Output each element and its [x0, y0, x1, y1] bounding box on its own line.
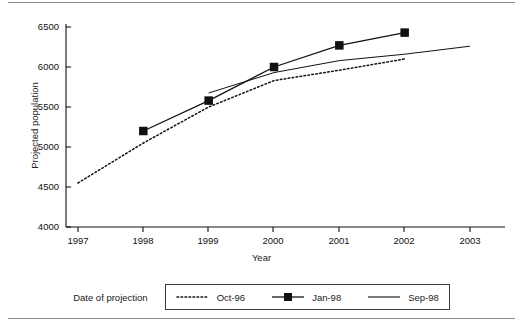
solid-line-swatch	[367, 291, 401, 303]
x-tick-label-2002: 2002	[384, 235, 424, 246]
data-point-marker	[270, 63, 279, 72]
data-point-marker	[139, 127, 148, 136]
legend-label-oct-96: Oct-96	[217, 292, 246, 303]
line-chart-plot	[0, 0, 523, 270]
legend-label-jan-98: Jan-98	[312, 292, 341, 303]
series-markers-jan-98	[139, 28, 409, 135]
data-point-marker	[400, 28, 409, 36]
data-point-marker	[335, 41, 344, 50]
legend-entry-sep-98[interactable]: Sep-98	[367, 291, 439, 303]
chart-legend: Date of projection Oct-96 Jan-98	[0, 282, 523, 312]
legend-title: Date of projection	[73, 292, 147, 303]
x-tick-label-2000: 2000	[253, 235, 293, 246]
y-axis-ticks	[66, 27, 71, 227]
x-tick-label-1998: 1998	[123, 235, 163, 246]
x-axis-ticks	[78, 227, 470, 232]
legend-entry-oct-96[interactable]: Oct-96	[176, 291, 246, 303]
x-tick-label-1997: 1997	[58, 235, 98, 246]
y-tick-label-6500: 6500	[33, 21, 59, 32]
legend-box: Oct-96 Jan-98 Sep-98	[165, 284, 450, 310]
x-tick-label-2003: 2003	[450, 235, 490, 246]
frame-bottom-divider	[8, 318, 515, 319]
legend-label-sep-98: Sep-98	[408, 292, 439, 303]
x-tick-label-1999: 1999	[188, 235, 228, 246]
series-line-jan-98	[143, 33, 404, 131]
y-tick-label-4000: 4000	[33, 221, 59, 232]
legend-entry-jan-98[interactable]: Jan-98	[271, 291, 341, 303]
y-axis-title: Projected population	[29, 66, 40, 186]
x-axis-title: Year	[0, 252, 523, 263]
data-point-marker	[204, 96, 213, 105]
solid-line-square-marker-swatch	[271, 291, 305, 303]
dotted-line-swatch	[176, 291, 210, 303]
x-tick-label-2001: 2001	[319, 235, 359, 246]
axis-lines	[66, 24, 505, 227]
chart-figure: 6500 6000 5500 5000 4500 4000 1997 1998 …	[0, 0, 523, 329]
series-line-oct-96	[78, 59, 405, 183]
